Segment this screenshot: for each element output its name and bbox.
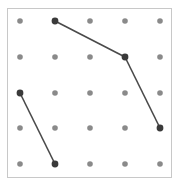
segment-endpoint-dot: [52, 161, 59, 168]
grid-dot-r3-c1: [52, 125, 58, 131]
grid-dot-r3-c3: [122, 125, 128, 131]
grid-dot-r0-c2: [87, 18, 93, 24]
line-segment-1: [125, 57, 160, 128]
grid-dot-r0-c4: [157, 18, 163, 24]
segment-endpoint-dot: [122, 54, 129, 61]
grid-dot-r2-c2: [87, 90, 93, 96]
grid-dot-r0-c0: [17, 18, 23, 24]
segment-endpoint-dot: [52, 18, 59, 25]
grid-dot-r1-c0: [17, 54, 23, 60]
grid-dot-r1-c2: [87, 54, 93, 60]
grid-dot-r2-c3: [122, 90, 128, 96]
grid-dot-r2-c1: [52, 90, 58, 96]
segment-endpoint-dot: [157, 125, 164, 132]
grid-dot-r2-c4: [157, 90, 163, 96]
line-segment-2: [20, 93, 55, 164]
grid-dot-r1-c4: [157, 54, 163, 60]
grid-dot-r3-c2: [87, 125, 93, 131]
grid-dot-r4-c4: [157, 161, 163, 167]
grid-dot-r1-c1: [52, 54, 58, 60]
grid-dots: [17, 18, 163, 167]
grid-dot-r3-c0: [17, 125, 23, 131]
line-segment-0: [55, 21, 125, 57]
dot-grid-board: [0, 0, 173, 188]
segment-endpoint-dot: [17, 90, 24, 97]
grid-dot-r4-c3: [122, 161, 128, 167]
grid-dot-r0-c3: [122, 18, 128, 24]
grid-dot-r4-c0: [17, 161, 23, 167]
grid-dot-r4-c2: [87, 161, 93, 167]
